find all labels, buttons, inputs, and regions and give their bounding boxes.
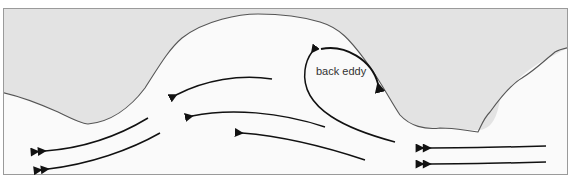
arrow-main-1 bbox=[176, 77, 272, 95]
arrow-main-2 bbox=[192, 112, 325, 127]
arrow-inflow-bottom bbox=[430, 162, 546, 164]
arrow-main-3 bbox=[242, 133, 365, 160]
arrow-inflow-top bbox=[430, 146, 546, 148]
flow-diagram bbox=[0, 0, 576, 180]
back-eddy-label: back eddy bbox=[316, 65, 366, 77]
